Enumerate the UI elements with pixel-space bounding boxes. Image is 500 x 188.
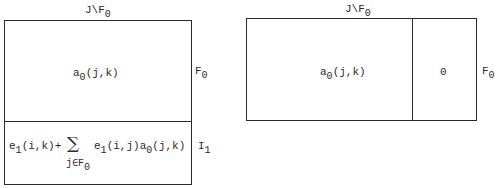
label-text: F [195,65,202,77]
label-text: a [320,66,327,78]
label-sub: 0 [105,9,111,20]
label-rest: (i,k)+ [22,140,62,152]
label-rest: (j,k) [86,67,119,79]
label-sub: 0 [489,70,495,81]
formula-term2: e1(i,j)a0(j,k) [94,141,185,152]
label-text: I [198,140,205,152]
label-text: e [9,140,16,152]
label-sub: 1 [205,145,211,156]
left-upper-block-label: a0(j,k) [73,68,119,79]
left-lower-side-label: I1 [198,141,211,152]
right-zero-block-label: 0 [440,67,447,78]
label-sub: 0 [202,70,208,81]
right-column-divider [412,18,413,121]
right-left-block-label: a0(j,k) [320,67,366,78]
label-rest: (i,j)a [107,140,147,152]
left-row-divider [4,121,192,122]
summation-icon: ∑ [67,133,79,153]
label-text: a [73,67,80,79]
left-matrix-box [4,20,192,185]
label-rest: (j,k) [152,140,185,152]
label-sub: 0 [84,162,90,173]
label-text: j∈F [66,158,84,169]
label-text: e [94,140,101,152]
label-rest: (j,k) [333,66,366,78]
formula-term1: e1(i,k)+ [9,141,61,152]
label-text: F [482,65,489,77]
sum-index: j∈F0 [66,157,90,169]
right-top-label: J\F0 [345,4,371,15]
left-top-label: J\F0 [85,5,111,16]
label-text: J\F [345,3,365,15]
right-side-label: F0 [482,66,495,77]
label-text: J\F [85,4,105,16]
left-upper-side-label: F0 [195,66,208,77]
